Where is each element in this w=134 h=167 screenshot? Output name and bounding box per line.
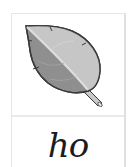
flashcard: ho xyxy=(11,13,126,167)
leaf-icon xyxy=(24,23,108,107)
flashcard-word-panel: ho xyxy=(12,117,124,167)
flashcard-image-panel xyxy=(12,14,124,115)
flashcard-word: ho xyxy=(12,123,124,167)
